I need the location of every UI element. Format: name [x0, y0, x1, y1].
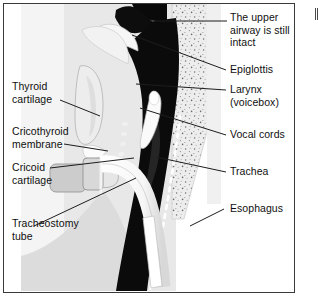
- label-larynx: Larynx (voicebox): [230, 83, 279, 108]
- label-thyroid-cartilage: Thyroid cartilage: [12, 80, 52, 105]
- label-upper-airway: The upper airway is still intact: [230, 11, 290, 49]
- label-cricoid-cartilage: Cricoid cartilage: [12, 161, 52, 186]
- label-tracheostomy-tube: Tracheostomy tube: [12, 217, 79, 242]
- tracheostomy-flange: [50, 164, 86, 192]
- label-trachea: Trachea: [230, 165, 268, 178]
- label-epiglottis: Epiglottis: [230, 63, 273, 76]
- label-esophagus: Esophagus: [230, 202, 283, 215]
- prevertebral-margin: [207, 4, 221, 204]
- figure-frame: The upper airway is still intact Epiglot…: [3, 3, 295, 293]
- label-cricothyroid-membrane: Cricothyroid membrane: [12, 125, 69, 150]
- label-vocal-cords: Vocal cords: [230, 128, 285, 141]
- vocal-cord-bulb: [149, 91, 159, 105]
